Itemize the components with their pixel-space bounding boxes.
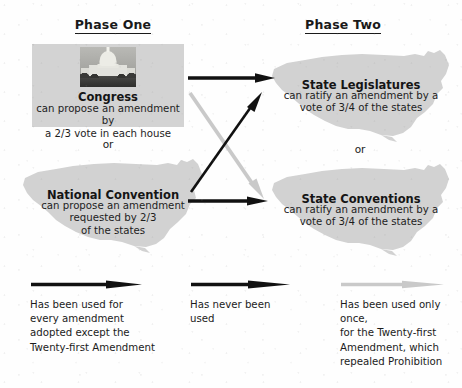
state-conventions-description: can ratify an amendment by a vote of 3/4… [268, 204, 454, 229]
arrow-national-convention-to-state-legislatures [191, 92, 262, 192]
legend-item-used-once: Has been used only once, for the Twenty-… [340, 280, 462, 369]
phase-one-label: Phase One [75, 17, 152, 34]
legend-used-line-1: Has been used for [30, 298, 190, 312]
congress-title: Congress [32, 90, 184, 104]
state-legislatures-line-2: vote of 3/4 of the states [268, 102, 454, 114]
legend-used-once-text: Has been used only once, for the Twenty-… [340, 298, 462, 369]
amendment-process-diagram: Phase One Phase Two Congress can propose… [0, 0, 462, 388]
legend-never-line-1: Has never been [190, 298, 310, 312]
legend-used-every-text: Has been used for every amendment adopte… [30, 298, 190, 355]
phase-one-heading: Phase One [53, 17, 173, 32]
state-conventions-line-2: vote of 3/4 of the states [268, 216, 454, 228]
congress-description: can propose an amendment by a 2/3 vote i… [32, 103, 184, 140]
legend-once-line-4: repealed Prohibition [340, 355, 462, 369]
legend-used-line-4: Twenty-first Amendment [30, 341, 190, 355]
congress-description-line-1: can propose an amendment by [32, 103, 184, 128]
national-convention-line-1: can propose an amendment [18, 200, 208, 212]
national-convention-line-2: requested by 2/3 [18, 212, 208, 224]
arrow-congress-to-state-legislatures [188, 73, 275, 83]
legend-arrow-black-solid [30, 280, 148, 289]
legend-once-line-2: for the Twenty-first [340, 326, 462, 340]
state-legislatures-line-1: can ratify an amendment by a [268, 90, 454, 102]
legend-never-used-text: Has never been used [190, 298, 310, 326]
us-capitol-photo [80, 47, 136, 87]
legend-used-line-2: every amendment [30, 312, 190, 326]
or-label-right: or [340, 143, 380, 155]
legend-item-never-used: Has never been used [190, 280, 310, 326]
phase-two-heading: Phase Two [283, 17, 403, 32]
legend-used-line-3: adopted except the [30, 326, 190, 340]
legend-arrow-black-never [190, 280, 300, 289]
legend-once-line-1: Has been used only once, [340, 298, 462, 326]
national-convention-description: can propose an amendment requested by 2/… [18, 200, 208, 237]
or-label-left: or [88, 138, 128, 150]
legend-never-line-2: used [190, 312, 310, 326]
arrow-congress-to-state-conventions [190, 93, 264, 199]
node-congress: Congress can propose an amendment by a 2… [32, 44, 184, 127]
legend-arrow-light-grey [340, 280, 452, 289]
phase-two-label: Phase Two [305, 17, 381, 34]
legend-once-line-3: Amendment, which [340, 341, 462, 355]
legend-item-used-every-amendment: Has been used for every amendment adopte… [30, 280, 190, 355]
national-convention-line-3: of the states [18, 225, 208, 237]
state-legislatures-description: can ratify an amendment by a vote of 3/4… [268, 90, 454, 115]
state-conventions-line-1: can ratify an amendment by a [268, 204, 454, 216]
